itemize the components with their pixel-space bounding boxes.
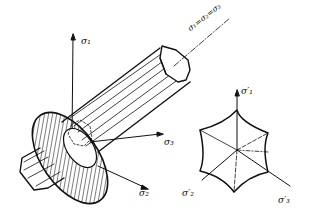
sigma3-axis <box>90 132 163 142</box>
sigma1-prime-label: σ′₁ <box>241 86 253 96</box>
sigma2-label: σ₂ <box>139 188 149 198</box>
deviatoric-plane-disk <box>17 99 123 216</box>
diagram-drawing <box>0 0 310 216</box>
sigma1-label: σ₁ <box>81 36 91 46</box>
sigma2-prime-label: σ′₂ <box>182 188 194 198</box>
sigma3-label: σ₃ <box>164 137 174 147</box>
deviatoric-section <box>200 90 290 192</box>
sigma3-prime-label: σ′₃ <box>278 195 290 205</box>
hydrostatic-axis <box>174 18 230 66</box>
yield-surface-diagram: σ₁ σ₂ σ₃ σ₁=σ₂=σ₃ σ′₁ σ′₂ σ′₃ <box>0 0 310 216</box>
